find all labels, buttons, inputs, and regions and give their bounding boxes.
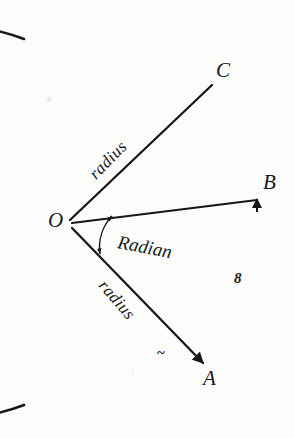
circle-arc xyxy=(0,26,24,418)
paper-speck xyxy=(132,372,134,374)
radian-diagram-figure: O A B C radius radius Radian 8 ~ xyxy=(0,0,294,438)
point-label-O: O xyxy=(48,210,63,231)
arc-length-label: 8 xyxy=(234,271,242,286)
point-label-B: B xyxy=(263,172,276,193)
paper-speck xyxy=(239,330,241,332)
segment-OC xyxy=(70,85,212,220)
point-label-C: C xyxy=(216,60,230,81)
radian-angle-arc xyxy=(100,216,112,254)
tilde-mark: ~ xyxy=(157,346,165,361)
paper-speck xyxy=(47,97,51,102)
diagram-canvas xyxy=(0,0,294,438)
point-label-A: A xyxy=(203,368,216,389)
segment-OB xyxy=(72,200,257,223)
paper-speck xyxy=(63,100,65,102)
